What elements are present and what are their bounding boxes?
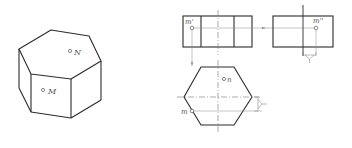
label-M: M bbox=[47, 87, 57, 96]
front-view: m' bbox=[183, 10, 316, 66]
top-view: n m bbox=[177, 60, 267, 134]
orthographic-projection-diagram: N M m' m'' n m bbox=[0, 0, 352, 148]
dimension-bracket-top bbox=[254, 97, 258, 111]
side-view: m'' bbox=[273, 5, 333, 63]
label-N: N bbox=[73, 48, 82, 57]
dimension-bracket-side bbox=[303, 52, 316, 55]
iso-point-N: N bbox=[68, 48, 82, 57]
label-n: n bbox=[227, 76, 232, 84]
label-m: m bbox=[181, 108, 188, 116]
label-m-prime: m' bbox=[185, 18, 194, 26]
point-m-double-prime bbox=[314, 26, 318, 30]
point-m-prime bbox=[190, 26, 194, 30]
isometric-hexagonal-prism bbox=[19, 30, 101, 118]
iso-point-M: M bbox=[41, 87, 57, 96]
point-m bbox=[190, 109, 194, 113]
point-n bbox=[222, 77, 225, 80]
prism-top-face bbox=[19, 30, 101, 79]
label-m-double-prime: m'' bbox=[313, 17, 324, 25]
